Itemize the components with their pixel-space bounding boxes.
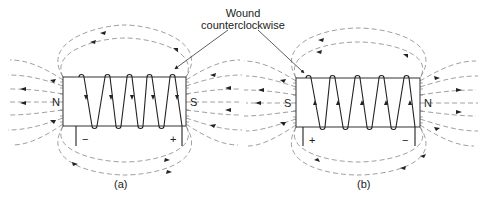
caption-b: (b) xyxy=(357,178,370,190)
pole-label-a-right: S xyxy=(190,96,197,108)
pole-label-b-left: S xyxy=(284,97,291,109)
pole-label-a-left: N xyxy=(52,96,60,108)
caption-a: (a) xyxy=(114,178,127,190)
pole-label-b-right: N xyxy=(424,97,432,109)
callout-line2: counterclockwise xyxy=(183,19,303,31)
solenoid-a xyxy=(8,25,242,175)
terminal-label-b-left: + xyxy=(309,134,315,146)
terminal-label-a-left: − xyxy=(82,133,88,145)
terminal-label-b-right: − xyxy=(402,134,408,146)
callout-leaders xyxy=(176,30,303,72)
terminal-label-a-right: + xyxy=(170,133,176,145)
callout-line1: Wound xyxy=(183,7,303,19)
callout-label: Wound counterclockwise xyxy=(183,7,303,31)
